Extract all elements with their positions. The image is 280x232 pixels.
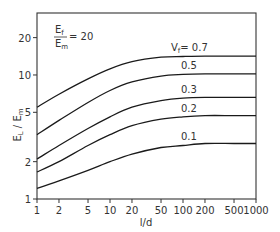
x-tick-label: 20: [126, 205, 139, 216]
series-label: 0.5: [181, 60, 197, 71]
chart: 1251020 1251020501002005001000 Vf= 0.70.…: [0, 0, 280, 232]
x-tick-label: 5: [85, 205, 91, 216]
series-labels: Vf= 0.70.50.30.20.1: [171, 42, 208, 142]
y-tick-label: 5: [25, 107, 31, 118]
series-line: [37, 56, 256, 107]
x-axis-ticks: 1251020501002005001000: [34, 199, 269, 216]
x-axis-title: l/d: [140, 217, 153, 228]
y-axis-title: EL / Em: [12, 108, 25, 141]
series-label: 0.2: [181, 103, 197, 114]
x-tick-label: 2: [56, 205, 62, 216]
x-tick-label: 50: [155, 205, 168, 216]
series-lines: [37, 56, 256, 188]
x-tick-label: 1: [34, 205, 40, 216]
svg-text:EL / Em: EL / Em: [12, 108, 25, 141]
series-line: [37, 97, 256, 159]
svg-text:Em: Em: [55, 38, 68, 51]
series-label: 0.1: [181, 131, 197, 142]
svg-text:Ef: Ef: [55, 24, 64, 37]
x-tick-label: 100: [173, 205, 192, 216]
x-tick-label: 500: [224, 205, 243, 216]
series-line: [37, 74, 256, 135]
x-tick-label: 10: [104, 205, 117, 216]
x-tick-label: 1000: [243, 205, 268, 216]
series-label: 0.3: [181, 84, 197, 95]
series-label: Vf= 0.7: [171, 42, 208, 55]
series-line: [37, 143, 256, 188]
ratio-annotation: Ef Em = 20: [54, 24, 93, 51]
svg-text:= 20: = 20: [69, 31, 93, 42]
y-tick-label: 20: [18, 33, 31, 44]
y-tick-label: 2: [25, 157, 31, 168]
y-tick-label: 1: [25, 194, 31, 205]
x-tick-label: 200: [195, 205, 214, 216]
y-tick-label: 10: [18, 70, 31, 81]
